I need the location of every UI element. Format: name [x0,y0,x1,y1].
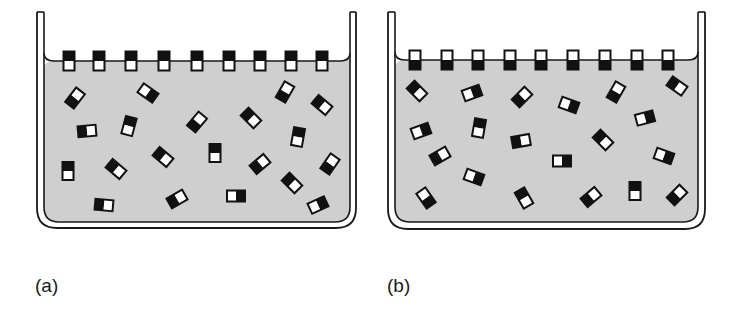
surface-molecule [317,52,328,71]
surface-molecule [663,51,674,70]
molecule [472,118,486,138]
molecule [95,199,114,212]
surface-molecule [632,51,643,70]
surface-molecule [600,51,611,70]
molecule [210,144,221,162]
surface-molecule [126,52,137,71]
panel-label-b: (b) [387,275,410,297]
surface-molecule [286,52,297,71]
surface-molecule [159,52,170,71]
surface-molecule [473,51,484,70]
surface-molecule [255,52,266,71]
molecule [511,134,531,148]
liquid [395,52,698,222]
surface-molecule [505,51,516,70]
surface-molecule [224,52,235,71]
surface-molecule [94,52,105,71]
molecule [291,127,305,147]
molecule [553,156,571,167]
panel-label-a: (a) [35,275,58,297]
molecule [630,182,641,200]
surface-molecule [192,52,203,71]
molecule [63,162,74,180]
molecule [78,125,97,138]
surface-molecule [568,51,579,70]
beaker-b [388,12,705,229]
surface-molecule [410,51,421,70]
diagram-canvas [0,0,740,323]
surface-molecule [536,51,547,70]
beaker-a [37,12,356,228]
surface-molecule [64,52,75,71]
surface-molecule [442,51,453,70]
molecule [227,191,245,202]
